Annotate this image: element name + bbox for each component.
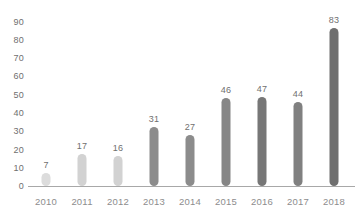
x-tick-label: 2017 (287, 196, 309, 207)
y-axis: 90 80 70 60 50 40 30 20 10 0 (0, 0, 28, 211)
x-tick-label: 2012 (107, 196, 129, 207)
bar-group: 46 2015 (208, 0, 244, 211)
bar-value-label: 7 (43, 160, 48, 170)
bar-value-label: 83 (329, 15, 339, 25)
bar-group: 83 2018 (316, 0, 352, 211)
bar[interactable] (294, 102, 303, 186)
x-tick-label: 2016 (251, 196, 273, 207)
y-tick-label: 80 (14, 35, 24, 45)
bar[interactable] (150, 127, 159, 186)
plot-area: 7 2010 17 2011 16 2012 31 2013 27 2014 4… (28, 0, 357, 211)
x-tick-label: 2010 (35, 196, 57, 207)
y-tick-label: 40 (14, 108, 24, 118)
bar[interactable] (222, 98, 231, 186)
y-tick-label: 70 (14, 53, 24, 63)
y-tick-label: 50 (14, 90, 24, 100)
bar[interactable] (42, 173, 51, 186)
bar-value-label: 47 (257, 84, 267, 94)
bar-value-label: 44 (293, 89, 303, 99)
bar-value-label: 31 (149, 114, 159, 124)
bar[interactable] (114, 156, 123, 186)
bar-group: 47 2016 (244, 0, 280, 211)
bar-group: 16 2012 (100, 0, 136, 211)
bar-group: 7 2010 (28, 0, 64, 211)
bar-value-label: 16 (113, 143, 123, 153)
bar[interactable] (78, 154, 87, 186)
bar[interactable] (258, 97, 267, 186)
x-tick-label: 2014 (179, 196, 201, 207)
y-tick-label: 0 (19, 181, 24, 191)
bar[interactable] (330, 28, 339, 186)
x-tick-label: 2011 (71, 196, 92, 207)
bar-value-label: 46 (221, 85, 231, 95)
y-tick-label: 60 (14, 71, 24, 81)
y-tick-label: 20 (14, 145, 24, 155)
y-tick-label: 10 (14, 163, 24, 173)
bar-group: 17 2011 (64, 0, 100, 211)
x-tick-label: 2018 (323, 196, 345, 207)
x-tick-label: 2015 (215, 196, 237, 207)
bar[interactable] (186, 135, 195, 186)
bar-value-label: 17 (77, 141, 87, 151)
bar-group: 31 2013 (136, 0, 172, 211)
bar-group: 44 2017 (280, 0, 316, 211)
y-tick-label: 30 (14, 126, 24, 136)
y-tick-label: 90 (14, 17, 24, 27)
x-tick-label: 2013 (143, 196, 165, 207)
bar-chart: 90 80 70 60 50 40 30 20 10 0 7 2010 17 2… (0, 0, 357, 211)
bar-group: 27 2014 (172, 0, 208, 211)
bar-value-label: 27 (185, 122, 195, 132)
